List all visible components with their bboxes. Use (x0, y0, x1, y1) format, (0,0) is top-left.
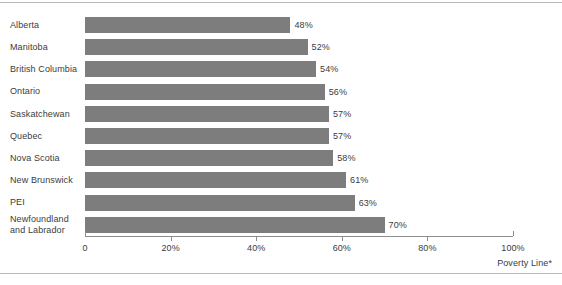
bar-row: New Brunswick61% (0, 169, 562, 191)
bar-value-label: 63% (359, 192, 377, 214)
bar-row: Alberta48% (0, 14, 562, 36)
bar-row: Quebec57% (0, 125, 562, 147)
x-axis-tick-label: 20% (161, 243, 179, 253)
bar-row: Manitoba52% (0, 36, 562, 58)
bar-row: Nova Scotia58% (0, 147, 562, 169)
bar-value-label: 70% (389, 214, 407, 236)
category-label: Manitoba (10, 36, 82, 58)
category-label: Quebec (10, 125, 82, 147)
x-axis-tick-label: 0 (82, 243, 87, 253)
bar-value-label: 56% (329, 81, 347, 103)
bar-value-label: 57% (333, 125, 351, 147)
bar-value-label: 61% (350, 169, 368, 191)
bar (85, 172, 346, 188)
category-label: Alberta (10, 14, 82, 36)
bar (85, 39, 308, 55)
bar (85, 150, 333, 166)
x-axis-tick (256, 237, 257, 241)
x-axis-end-cap (85, 231, 86, 236)
x-axis-tick-label: 100% (501, 243, 524, 253)
bar-value-label: 48% (294, 14, 312, 36)
category-label: PEI (10, 192, 82, 214)
chart-figure: Alberta48%Manitoba52%British Columbia54%… (0, 0, 562, 285)
category-label: Nova Scotia (10, 147, 82, 169)
bar-value-label: 54% (320, 58, 338, 80)
bar-row: Saskatchewan57% (0, 103, 562, 125)
bar-value-label: 52% (312, 36, 330, 58)
x-axis-tick (342, 237, 343, 241)
category-label: Ontario (10, 81, 82, 103)
bar (85, 217, 385, 233)
x-axis-tick (427, 237, 428, 241)
bar (85, 106, 329, 122)
category-label: British Columbia (10, 58, 82, 80)
bar (85, 17, 290, 33)
bar-row: Ontario56% (0, 81, 562, 103)
bar-row: British Columbia54% (0, 58, 562, 80)
bar (85, 84, 325, 100)
category-label: Newfoundland and Labrador (10, 214, 82, 236)
bar (85, 61, 316, 77)
bar (85, 128, 329, 144)
x-axis-tick-label: 60% (333, 243, 351, 253)
bar-value-label: 57% (333, 103, 351, 125)
x-axis-line (85, 236, 513, 237)
x-axis-tick-label: 80% (418, 243, 436, 253)
bar-row: PEI63% (0, 192, 562, 214)
x-axis-title: Poverty Line* (497, 258, 552, 268)
x-axis-end-cap (513, 231, 514, 236)
x-axis-tick-label: 40% (247, 243, 265, 253)
category-label: New Brunswick (10, 169, 82, 191)
bar (85, 195, 355, 211)
x-axis-tick (171, 237, 172, 241)
bar-value-label: 58% (337, 147, 355, 169)
category-label: Saskatchewan (10, 103, 82, 125)
